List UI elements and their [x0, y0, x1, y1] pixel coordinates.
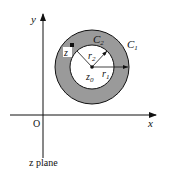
- plane-caption: z plane: [29, 157, 58, 168]
- point-z-marker: [70, 43, 74, 47]
- c1-label: C1: [127, 38, 138, 52]
- x-axis-label: x: [147, 117, 153, 129]
- origin-label: O: [33, 118, 40, 129]
- y-axis-label: y: [30, 13, 36, 25]
- point-z-label: z: [63, 47, 68, 58]
- center-point-z0: [90, 65, 94, 69]
- z-plane-diagram: y x O z C2 C1 r2 r1 z0 z plane: [0, 0, 172, 173]
